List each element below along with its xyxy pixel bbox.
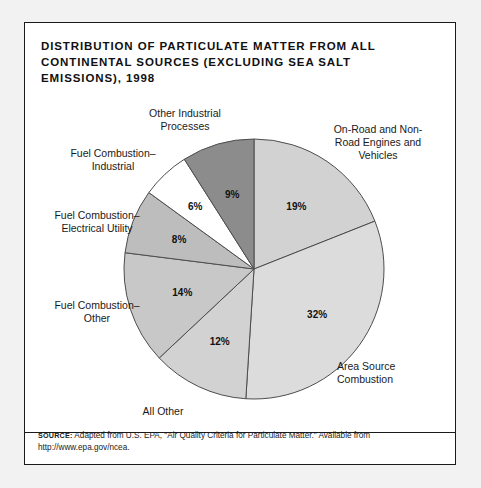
pie-slice-value-label: 32% — [307, 309, 327, 320]
pie-chart: 19%32%12%14%8%6%9% Other Industrial Proc… — [25, 23, 457, 466]
pie-label-other-industrial-processes: Other Industrial Processes — [131, 107, 239, 133]
figure-page: DISTRIBUTION OF PARTICULATE MATTER FROM … — [0, 0, 481, 488]
pie-slice-value-label: 8% — [172, 234, 187, 245]
source-tag: SOURCE: — [38, 431, 73, 440]
pie-slice-value-label: 9% — [225, 189, 240, 200]
source-text: Adapted from U.S. EPA, "Air Quality Crit… — [38, 431, 370, 452]
pie-slice-value-label: 12% — [210, 336, 230, 347]
source-note: SOURCE: Adapted from U.S. EPA, "Air Qual… — [38, 430, 445, 454]
pie-slice-value-label: 6% — [188, 201, 203, 212]
pie-label-on-road-and-non-road-engines-and-vehicles: On-Road and Non- Road Engines and Vehicl… — [319, 123, 437, 162]
pie-label-fuel-combustion-other: Fuel Combustion– Other — [35, 299, 159, 325]
pie-label-fuel-combustion-industrial: Fuel Combustion– Industrial — [53, 147, 173, 173]
pie-label-all-other: All Other — [117, 405, 209, 418]
pie-chart-svg: 19%32%12%14%8%6%9% — [25, 23, 457, 466]
pie-label-fuel-combustion-electrical-utility: Fuel Combustion– Electrical Utility — [33, 209, 161, 235]
pie-slice-value-label: 19% — [286, 201, 306, 212]
figure-frame: DISTRIBUTION OF PARTICULATE MATTER FROM … — [24, 22, 456, 465]
pie-slice-value-label: 14% — [172, 287, 192, 298]
pie-label-area-source-combustion: Area Source Combustion — [337, 360, 441, 386]
